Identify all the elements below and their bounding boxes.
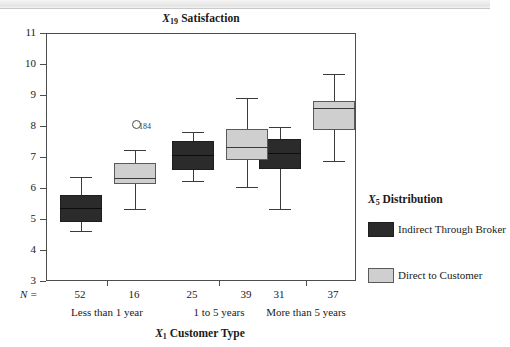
sample-size-value: 31 [264,288,294,300]
legend-title-variable: X [368,193,376,205]
legend-title-subscript: 5 [376,198,380,207]
y-axis-tick-label: 11 [14,27,36,38]
legend-swatch-direct [368,268,394,283]
y-axis-tick-label: 3 [14,275,36,286]
sample-size-value: 52 [65,288,95,300]
box-plot-box [47,34,355,280]
x-axis-tick-mark [306,281,307,286]
whisker-cap-lower [323,161,345,162]
x-axis-tick-mark [219,281,220,286]
sample-size-value: 16 [119,288,149,300]
y-axis-tick-label: 5 [14,213,36,224]
legend-swatch-indirect [368,222,394,237]
box-plot-series-layer: 184 [47,34,355,280]
x-axis-group-label: Less than 1 year [47,306,167,318]
box-iqr [313,101,355,130]
legend-title-text: Distribution [383,193,443,205]
chart-title-text: Satisfaction [181,12,240,24]
legend-label: Direct to Customer [398,269,510,282]
sample-size-value: 25 [177,288,207,300]
y-axis-tick-mark [40,281,46,282]
chart-title-variable: X [162,12,170,24]
y-axis-tick-label: 7 [14,151,36,162]
x-axis-group-label: More than 5 years [246,306,366,318]
y-axis-tick-label: 10 [14,58,36,69]
x-axis-title-text: Customer Type [170,327,245,339]
whisker-cap-upper [323,74,345,75]
chart-title-subscript: 19 [170,17,178,26]
legend-label: Indirect Through Broker [398,223,510,236]
whisker-lower [334,130,335,161]
page-top-rule [0,8,490,9]
x-axis-title: X1 Customer Type [100,327,300,341]
box-median-line [313,108,355,109]
plot-area: 184 [46,33,356,281]
y-axis-tick-label: 8 [14,120,36,131]
sample-size-value: 39 [231,288,261,300]
y-axis-tick-label: 4 [14,244,36,255]
legend-title: X5 Distribution [368,193,443,207]
y-axis-tick-label: 9 [14,89,36,100]
chart-title: X19 Satisfaction [106,12,296,26]
x-axis-title-variable: X [155,327,163,339]
sample-size-label: N = [20,288,38,300]
sample-size-value: 37 [318,288,348,300]
x-axis-title-subscript: 1 [163,332,167,341]
y-axis-tick-label: 6 [14,182,36,193]
x-axis-tick-mark [107,281,108,286]
whisker-upper [334,74,335,100]
